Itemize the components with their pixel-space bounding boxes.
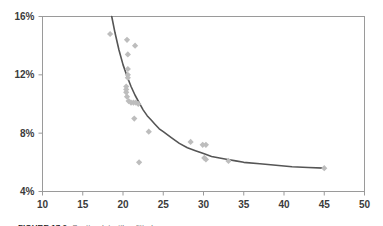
y-tick-label: 8%: [20, 128, 35, 139]
data-point-marker: [146, 129, 152, 135]
x-axis-ticks: [43, 192, 365, 196]
data-point-marker: [136, 159, 142, 165]
figure-container: 4%8%12%16% 101520253035404550 FIGURE 17.…: [0, 0, 383, 226]
x-tick-label: 10: [37, 199, 49, 210]
data-point-markers: [107, 31, 327, 171]
y-tick-label: 16%: [14, 11, 34, 22]
figure-caption-label: FIGURE 17.2: [18, 223, 67, 226]
fit-curve-path: [112, 17, 325, 169]
x-tick-label: 45: [319, 199, 331, 210]
y-axis-tick-labels: 4%8%12%16%: [14, 11, 34, 197]
data-point-marker: [107, 31, 113, 37]
x-tick-label: 50: [359, 199, 371, 210]
data-point-marker: [321, 165, 327, 171]
x-tick-label: 25: [158, 199, 170, 210]
x-tick-label: 20: [117, 199, 129, 210]
data-point-marker: [132, 43, 138, 49]
scatter-chart: 4%8%12%16% 101520253035404550: [0, 0, 383, 210]
plot-frame: [43, 17, 365, 192]
data-point-marker: [131, 115, 137, 121]
data-point-marker: [188, 139, 194, 145]
chart-area: 4%8%12%16% 101520253035404550: [0, 0, 383, 210]
data-point-marker: [125, 51, 131, 57]
data-point-marker: [124, 37, 130, 43]
y-tick-label: 4%: [20, 186, 35, 197]
figure-caption: FIGURE 17.2Scatterplot with a fitted cur…: [18, 216, 378, 226]
x-tick-label: 15: [77, 199, 89, 210]
x-axis-tick-labels: 101520253035404550: [37, 199, 371, 210]
x-tick-label: 35: [238, 199, 250, 210]
fitted-curve: [112, 17, 325, 169]
figure-caption-text: Scatterplot with a fitted curve: [72, 223, 175, 226]
y-tick-label: 12%: [14, 69, 34, 80]
y-axis-ticks: [39, 17, 43, 192]
x-tick-label: 30: [198, 199, 210, 210]
data-point-marker: [203, 142, 209, 148]
x-tick-label: 40: [278, 199, 290, 210]
